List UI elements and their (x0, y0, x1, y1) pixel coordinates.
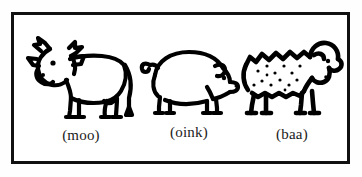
illustration-frame: (moo) (11, 12, 350, 164)
pig-line-drawing-icon (137, 45, 241, 117)
figure-cow: (moo) (22, 35, 140, 143)
illustration-page: (moo) (0, 0, 362, 177)
figure-sheep: (baa) (236, 35, 348, 142)
sheep-line-drawing-icon (238, 35, 346, 121)
cow-line-drawing-icon (25, 35, 137, 121)
figure-row: (moo) (14, 15, 353, 167)
figure-cow-label: (moo) (22, 128, 140, 143)
figure-pig-label: (oink) (135, 125, 243, 140)
figure-sheep-label: (baa) (236, 127, 348, 142)
figure-pig: (oink) (135, 45, 243, 140)
